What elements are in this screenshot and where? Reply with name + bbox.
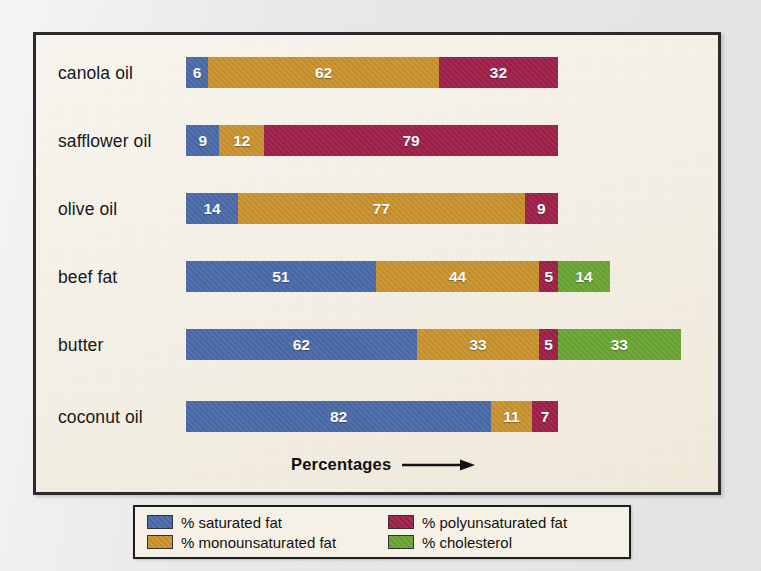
stacked-bar: 82117 [186,401,558,432]
bar-segment-poly: 5 [539,261,558,292]
bar-segment-mono: 11 [491,401,532,432]
segment-value: 79 [402,133,419,149]
legend-label-sat: % saturated fat [181,514,282,531]
stacked-bar: 5144514 [186,261,610,292]
bar-segment-mono: 44 [376,261,540,292]
row-label-safflower-oil: safflower oil [58,130,151,151]
bar-segment-poly: 7 [532,401,558,432]
legend-label-chol: % cholesterol [422,534,512,551]
plot-area: canola oil66232safflower oil91279olive o… [36,35,718,492]
stacked-bar: 6233533 [186,329,681,360]
chart-row: butter6233533 [36,329,718,360]
segment-value: 5 [544,337,553,353]
segment-value: 51 [272,269,289,285]
legend-swatch-chol [388,535,414,549]
segment-value: 14 [203,201,220,217]
chart-row: beef fat5144514 [36,261,718,292]
bar-segment-sat: 51 [186,261,376,292]
stacked-bar: 14779 [186,193,558,224]
row-label-beef-fat: beef fat [58,266,117,287]
x-axis-caption: Percentages [291,455,476,474]
bar-segment-sat: 14 [186,193,238,224]
legend-swatch-sat [147,515,173,529]
segment-value: 14 [575,269,592,285]
bar-segment-mono: 12 [219,125,264,156]
segment-value: 33 [611,337,628,353]
row-label-butter: butter [58,334,103,355]
segment-value: 44 [449,269,466,285]
x-axis-label: Percentages [291,455,391,474]
legend-swatch-poly [388,515,414,529]
segment-value: 32 [490,65,507,81]
segment-value: 77 [373,201,390,217]
chart-frame: canola oil66232safflower oil91279olive o… [33,32,721,495]
segment-value: 6 [193,65,202,81]
chart-row: coconut oil82117 [36,401,718,432]
bar-segment-mono: 62 [208,57,439,88]
stacked-bar: 91279 [186,125,558,156]
stacked-bar: 66232 [186,57,558,88]
chart-row: canola oil66232 [36,57,718,88]
chart-legend: % saturated fat% polyunsaturated fat% mo… [133,505,631,559]
legend-label-poly: % polyunsaturated fat [422,514,567,531]
row-label-olive-oil: olive oil [58,198,117,219]
row-label-canola-oil: canola oil [58,62,133,83]
bar-segment-sat: 62 [186,329,417,360]
legend-item-poly: % polyunsaturated fat [388,513,619,531]
segment-value: 11 [503,409,519,425]
segment-value: 9 [537,201,546,217]
segment-value: 62 [315,65,332,81]
legend-label-mono: % monounsaturated fat [181,534,336,551]
bar-segment-poly: 79 [264,125,558,156]
legend-item-sat: % saturated fat [147,513,378,531]
bar-segment-chol: 33 [558,329,681,360]
right-arrow-icon [402,458,476,472]
bar-segment-poly: 9 [525,193,558,224]
legend-swatch-mono [147,535,173,549]
legend-item-mono: % monounsaturated fat [147,533,378,551]
legend-item-chol: % cholesterol [388,533,619,551]
segment-value: 9 [198,133,207,149]
row-label-coconut-oil: coconut oil [58,406,143,427]
bar-segment-sat: 9 [186,125,219,156]
bar-segment-chol: 14 [558,261,610,292]
segment-value: 7 [541,409,550,425]
bar-segment-mono: 33 [417,329,540,360]
segment-value: 62 [293,337,310,353]
bar-segment-mono: 77 [238,193,524,224]
segment-value: 82 [330,409,347,425]
chart-row: olive oil14779 [36,193,718,224]
segment-value: 12 [233,133,250,149]
segment-value: 33 [469,337,486,353]
bar-segment-sat: 82 [186,401,491,432]
bar-segment-sat: 6 [186,57,208,88]
bar-segment-poly: 5 [539,329,558,360]
chart-row: safflower oil91279 [36,125,718,156]
bar-segment-poly: 32 [439,57,558,88]
segment-value: 5 [544,269,553,285]
